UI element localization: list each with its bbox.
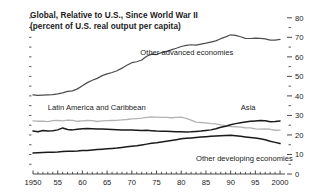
x-tick-label: 95 <box>251 178 259 187</box>
x-tick-label: 1950 <box>25 178 42 187</box>
y-tick-label: 20 <box>295 131 303 140</box>
x-tick-label: 2000 <box>272 178 289 187</box>
x-tick-label: 65 <box>103 178 111 187</box>
y-tick-label: 10 <box>295 150 303 159</box>
series-label: Other developing economies <box>196 154 293 163</box>
x-tick-label: 55 <box>53 178 61 187</box>
y-tick-label: 70 <box>295 33 303 42</box>
series-label: Latin America and Caribbean <box>48 103 146 112</box>
line-chart: Global, Relative to U.S., Since World Wa… <box>0 0 333 195</box>
series-label: Other advanced economies <box>140 48 233 57</box>
chart-title: Global, Relative to U.S., Since World Wa… <box>30 11 198 20</box>
series-line <box>33 121 280 133</box>
y-tick-label: 40 <box>295 92 303 101</box>
y-tick-label: 30 <box>295 111 303 120</box>
y-tick-label: 80 <box>295 14 303 23</box>
series-line <box>33 117 280 130</box>
y-tick-label: 0 <box>295 170 299 179</box>
chart-title-group: Global, Relative to U.S., Since World Wa… <box>30 11 198 31</box>
series-line <box>33 35 280 96</box>
x-tick-label: 70 <box>128 178 136 187</box>
series-line <box>33 135 280 153</box>
x-tick-label: 80 <box>177 178 185 187</box>
chart-figure: Global, Relative to U.S., Since World Wa… <box>0 0 333 195</box>
series-labels-group: Other advanced economiesLatin America an… <box>48 48 293 163</box>
series-label: Asia <box>241 103 257 112</box>
x-tick-label: 60 <box>78 178 86 187</box>
x-axis: 19505560657075808590952000 <box>25 171 289 188</box>
y-tick-label: 50 <box>295 72 303 81</box>
x-tick-label: 75 <box>152 178 160 187</box>
chart-subtitle: (percent of U.S. real output per capita) <box>30 22 181 31</box>
x-tick-label: 90 <box>226 178 234 187</box>
x-tick-label: 85 <box>202 178 210 187</box>
y-tick-label: 60 <box>295 53 303 62</box>
